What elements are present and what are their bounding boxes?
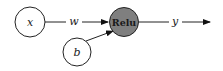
- edge-x-to-relu: w: [45, 15, 108, 28]
- node-x: x: [15, 7, 45, 37]
- neural-unit-diagram: w y x b Relu: [0, 0, 223, 71]
- node-relu-label: Relu: [112, 17, 137, 28]
- node-x-label: x: [27, 16, 34, 29]
- node-b-label: b: [73, 46, 80, 59]
- node-b: b: [63, 38, 91, 66]
- edge-relu-to-output: y: [139, 15, 210, 28]
- edge-label-y: y: [171, 15, 179, 28]
- node-relu: Relu: [110, 8, 139, 37]
- edge-label-w: w: [69, 15, 79, 28]
- edge-b-to-relu: [86, 31, 113, 41]
